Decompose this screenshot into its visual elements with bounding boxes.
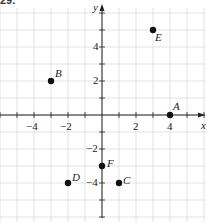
data-point-f	[99, 163, 105, 169]
x-tick-label: 4	[167, 121, 173, 132]
point-label-f: F	[107, 158, 114, 169]
y-tick-label: −4	[86, 177, 98, 188]
data-point-a	[167, 112, 173, 118]
y-axis-arrow-icon	[100, 4, 105, 11]
x-tick-label: 2	[133, 121, 139, 132]
y-tick-label: 4	[93, 41, 99, 52]
data-point-d	[65, 180, 71, 186]
data-point-b	[48, 78, 54, 84]
x-tick-label: −4	[26, 121, 38, 132]
point-label-b: B	[55, 68, 62, 79]
x-tick-label: −2	[60, 121, 72, 132]
point-label-e: E	[155, 32, 162, 43]
y-tick-label: −2	[86, 143, 98, 154]
y-tick-label: 2	[93, 75, 99, 86]
point-label-d: D	[72, 172, 80, 183]
x-axis-label: x	[201, 120, 206, 131]
point-label-a: A	[173, 101, 180, 112]
y-axis-label: y	[93, 2, 98, 13]
data-point-c	[116, 180, 122, 186]
point-label-c: C	[123, 175, 130, 186]
